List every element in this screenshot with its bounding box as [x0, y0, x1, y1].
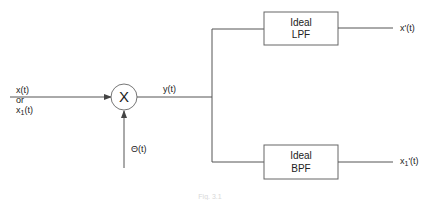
input-label-x: x(t): [16, 85, 29, 95]
lpf-output-label: x'(t): [400, 23, 415, 33]
figure-caption: Fig. 3.1: [198, 193, 221, 200]
bpf-label-line2: BPF: [291, 163, 310, 174]
lpf-label-line1: Ideal: [290, 17, 312, 28]
input-label-x1: x1(t): [16, 105, 33, 116]
bpf-output-label: x1'(t): [400, 156, 419, 167]
block-diagram: x(t) or x1(t) X Θ(t) y(t) Ideal LPF x'(t…: [0, 0, 432, 200]
mixer-output-label: y(t): [163, 84, 176, 94]
carrier-label: Θ(t): [131, 144, 147, 154]
lpf-label-line2: LPF: [292, 29, 310, 40]
bpf-label-line1: Ideal: [290, 150, 312, 161]
input-label-or: or: [16, 95, 24, 105]
multiplier-symbol: X: [119, 88, 129, 105]
